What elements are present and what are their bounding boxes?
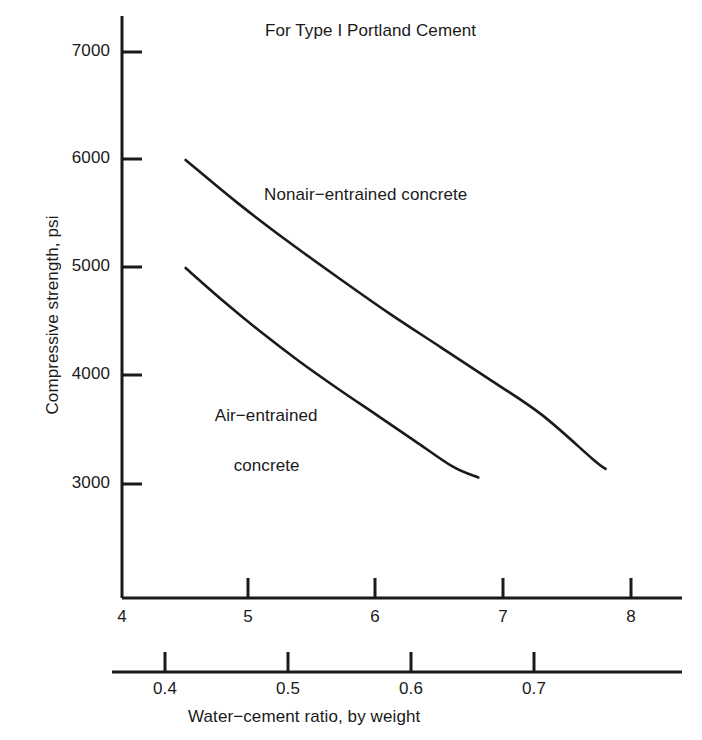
x-tick-label-7: 7 [478,607,528,627]
series-label-air-entrained: Air−entrained concrete [182,378,332,503]
x-tick-label-5: 5 [223,607,273,627]
ratio-tick-label-0-4: 0.4 [139,679,191,699]
y-tick-label-4000: 4000 [44,364,110,384]
secondary-x-axis-title: Water−cement ratio, by weight [188,707,420,727]
chart-figure: For Type I Portland Cement Compressive s… [0,0,702,740]
x-tick-label-6: 6 [350,607,400,627]
y-tick-label-5000: 5000 [44,256,110,276]
y-tick-label-3000: 3000 [44,473,110,493]
series-label-air-line1: Air−entrained [215,406,318,425]
secondary-x-axis-ticks [165,652,534,672]
ratio-tick-label-0-5: 0.5 [262,679,314,699]
x-tick-label-8: 8 [606,607,656,627]
y-axis-title: Compressive strength, psi [43,200,63,430]
series-label-air-line2: concrete [234,456,300,475]
x-tick-label-4: 4 [97,607,147,627]
ratio-tick-label-0-7: 0.7 [508,679,560,699]
series-label-nonair-entrained: Nonair−entrained concrete [264,185,467,205]
x-axis-ticks [248,578,631,598]
y-tick-label-7000: 7000 [44,41,110,61]
y-tick-label-6000: 6000 [44,148,110,168]
ratio-tick-label-0-6: 0.6 [385,679,437,699]
chart-title: For Type I Portland Cement [265,21,476,41]
y-axis-ticks [122,52,142,484]
